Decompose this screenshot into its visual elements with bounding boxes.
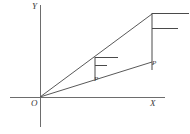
x-axis-label: X: [150, 99, 156, 108]
y-axis-label: Y: [32, 2, 37, 11]
upper-ray-line: [40, 14, 152, 97]
geometry-figure: Y X O P P: [0, 0, 190, 134]
outer-point-label: P: [152, 60, 156, 67]
origin-label: O: [31, 99, 38, 108]
figure-canvas: [0, 0, 190, 134]
inner-point-label: P: [94, 76, 98, 83]
